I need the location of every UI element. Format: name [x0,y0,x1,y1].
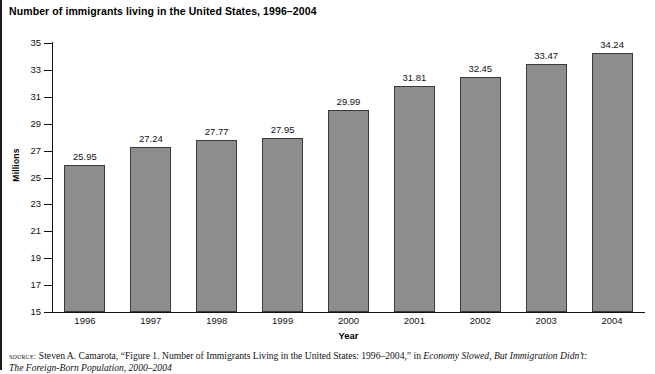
x-axis-category-label: 2000 [319,315,379,326]
y-axis-tick-label-text: 35 [1,38,41,48]
bar [262,138,303,312]
y-axis-tick-label-text: 29 [1,119,41,129]
y-axis-line [52,42,53,313]
y-axis-tick-label: 27 [0,146,41,156]
y-axis-tick [44,231,52,232]
bar-chart: Millions Year 3533312927252321191715 25.… [0,0,655,345]
bar-value-label: 33.47 [516,51,576,61]
y-axis-tick-label-text: 17 [1,280,41,290]
x-axis-category-label: 1999 [253,315,313,326]
y-axis-tick-label: 29 [0,119,41,129]
x-axis-category-label: 2004 [582,315,642,326]
y-axis-tick-label-text: 31 [1,92,41,102]
bar-value-label: 27.95 [253,125,313,135]
bar [130,147,171,312]
y-axis-tick [44,178,52,179]
y-axis-tick [44,97,52,98]
x-axis-category-label: 1998 [187,315,247,326]
y-axis-tick-label: 17 [0,280,41,290]
y-axis-tick-label: 19 [0,253,41,263]
bar-value-label: 29.99 [319,97,379,107]
source-second-line: The Foreign-Born Population, 2000–2004 [9,362,172,373]
y-axis-tick [44,312,52,313]
y-axis-tick [44,258,52,259]
y-axis-tick-label-text: 19 [1,253,41,263]
y-axis-tick-label-text: 33 [1,65,41,75]
bar [196,140,237,312]
x-axis-category-label: 1996 [55,315,115,326]
bar-value-label: 27.24 [121,134,181,144]
y-axis-tick-label: 33 [0,65,41,75]
bar-value-label: 25.95 [55,152,115,162]
y-axis-title: Millions [11,135,21,195]
bar [526,64,567,312]
y-axis-tick-label-text: 21 [1,226,41,236]
y-axis-tick-label: 35 [0,38,41,48]
source-italic-title: Economy Slowed, But Immigration Didn’t: [423,350,587,361]
bar [394,86,435,312]
bar [64,165,105,312]
y-axis-tick-label-text: 25 [1,173,41,183]
y-axis-tick-label-text: 15 [1,307,41,317]
y-axis-tick-label: 15 [0,307,41,317]
y-axis-tick [44,43,52,44]
y-axis-tick [44,70,52,71]
y-axis-tick [44,204,52,205]
bar-value-label: 31.81 [384,73,444,83]
y-axis-tick-label: 25 [0,173,41,183]
source-note: source: Steven A. Camarota, “Figure 1. N… [9,350,655,374]
bar [592,53,633,312]
y-axis-tick-label: 31 [0,92,41,102]
x-axis-category-label: 1997 [121,315,181,326]
y-axis-tick [44,124,52,125]
y-axis-tick-label-text: 23 [1,199,41,209]
source-text: Steven A. Camarota, “Figure 1. Number of… [36,350,423,361]
y-axis-tick-label: 21 [0,226,41,236]
x-axis-category-label: 2002 [450,315,510,326]
bar [328,110,369,312]
x-axis-title: Year [52,330,645,341]
bar-value-label: 27.77 [187,127,247,137]
x-axis-category-label: 2003 [516,315,576,326]
y-axis-tick-label: 23 [0,199,41,209]
x-axis-category-label: 2001 [384,315,444,326]
bar-value-label: 32.45 [450,64,510,74]
bar-value-label: 34.24 [582,40,642,50]
y-axis-tick [44,151,52,152]
source-label: source: [9,351,36,361]
x-axis-line [52,312,645,313]
bar [460,77,501,312]
y-axis-tick-label-text: 27 [1,146,41,156]
y-axis-tick [44,285,52,286]
